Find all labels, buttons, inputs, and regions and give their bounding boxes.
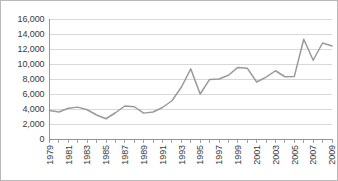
x-axis-tick-label: 2005 — [290, 145, 300, 165]
x-axis-tick-label: 1981 — [64, 145, 74, 165]
gridlines-group — [50, 19, 333, 139]
x-axis-tick-label: 1995 — [195, 145, 205, 165]
y-axis-tick-label: 4,000 — [22, 104, 44, 114]
y-axis-tick-label: 8,000 — [22, 74, 44, 84]
x-axis-tick-label: 2001 — [252, 145, 262, 165]
x-axis-tick-label: 1985 — [101, 145, 111, 165]
x-axis-tick-label: 1991 — [158, 145, 168, 165]
x-axis-tickmarks — [50, 139, 333, 143]
x-axis-tick-label: 1983 — [82, 145, 92, 165]
x-axis-tick-label: 1999 — [233, 145, 243, 165]
y-axis-tick-label: 6,000 — [22, 89, 44, 99]
y-axis-tick-label: 10,000 — [18, 59, 45, 69]
line-chart: 02,0004,0006,0008,00010,00012,00014,0001… — [0, 0, 338, 181]
x-axis-tick-label: 1979 — [45, 145, 55, 165]
x-axis-tick-label: 1997 — [214, 145, 224, 165]
x-axis-tick-label: 1987 — [120, 145, 130, 165]
y-axis-tick-labels: 02,0004,0006,0008,00010,00012,00014,0001… — [18, 14, 45, 144]
chart-canvas: 02,0004,0006,0008,00010,00012,00014,0001… — [1, 1, 338, 181]
x-axis-tick-label: 2009 — [327, 145, 337, 165]
x-axis-tick-label: 1993 — [177, 145, 187, 165]
y-axis-tick-label: 12,000 — [18, 44, 45, 54]
y-axis-tick-label: 0 — [40, 134, 45, 144]
y-axis-tick-label: 16,000 — [18, 14, 45, 24]
y-axis-tick-label: 14,000 — [18, 29, 45, 39]
x-axis-tick-label: 2003 — [271, 145, 281, 165]
x-axis-tick-label: 1989 — [139, 145, 149, 165]
y-axis-tick-label: 2,000 — [22, 119, 44, 129]
x-axis-tick-label: 2007 — [308, 145, 318, 165]
x-axis-tick-labels: 1979198119831985198719891991199319951997… — [45, 145, 338, 165]
